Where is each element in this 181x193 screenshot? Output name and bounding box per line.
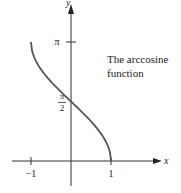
arccosine-figure: x y −11ππ2 The arccosine function — [0, 0, 181, 193]
x-axis-label: x — [163, 155, 169, 166]
y-tick-label-denominator: 2 — [60, 103, 65, 113]
y-tick-label-0: π — [54, 36, 59, 47]
y-axis-label: y — [65, 0, 71, 8]
x-axis-arrow-icon — [153, 158, 162, 164]
annotation-line-1: The arccosine — [107, 53, 168, 65]
x-tick-label-1: 1 — [109, 168, 114, 179]
annotation-line-2: function — [107, 67, 144, 79]
chart-svg: x y −11ππ2 The arccosine function — [0, 0, 181, 193]
x-tick-label-0: −1 — [26, 168, 37, 179]
